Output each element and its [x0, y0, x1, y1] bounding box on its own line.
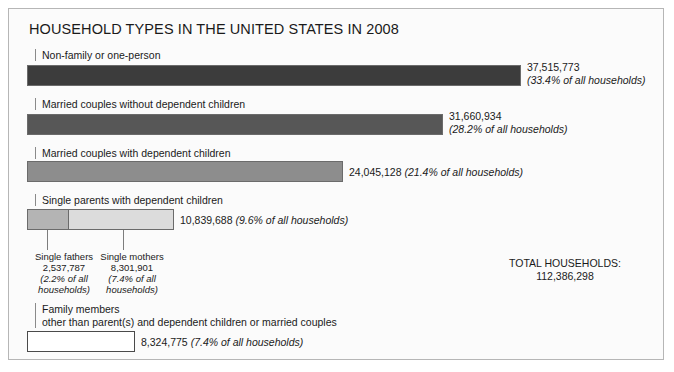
- bar-value-married-with-children: 24,045,128 (21.4% of all households): [349, 166, 523, 179]
- bar-value-number: 24,045,128: [349, 166, 402, 178]
- bar-non-family: [27, 65, 521, 86]
- callout-name: Single mothers: [99, 251, 165, 262]
- bar-value-number: 8,324,775: [141, 336, 188, 348]
- bar-label-single-parents: Single parents with dependent children: [35, 194, 223, 206]
- bar-label-other-family-members: Family members other than parent(s) and …: [35, 303, 337, 328]
- bar-value-non-family: 37,515,773 (33.4% of all households): [527, 61, 646, 86]
- total-households-label: TOTAL HOUSEHOLDS:: [475, 257, 655, 270]
- bar-value-percent: (9.6% of all households): [235, 214, 348, 226]
- bar-value-percent: (7.4% of all households): [191, 336, 304, 348]
- bar-label-non-family: Non-family or one-person: [35, 49, 160, 61]
- bar-label-married-with-children: Married couples with dependent children: [35, 147, 231, 159]
- bar-value-percent: (28.2% of all households): [449, 123, 568, 136]
- bar-segment-single-mothers: [69, 210, 173, 229]
- bar-other-family-members: [27, 331, 135, 352]
- bar-value-percent: (21.4% of all households): [404, 166, 523, 178]
- callout-single-fathers: Single fathers 2,537,787 (2.2% of all ho…: [33, 251, 95, 295]
- bar-value-married-without-children: 31,660,934 (28.2% of all households): [449, 110, 568, 135]
- callout-percent-line2: households): [99, 284, 165, 295]
- bar-value-percent: (33.4% of all households): [527, 74, 646, 87]
- bar-label-line-1: Family members: [42, 303, 337, 316]
- callout-value: 8,301,901: [99, 262, 165, 273]
- bar-value-number: 31,660,934: [449, 110, 568, 123]
- callout-name: Single fathers: [33, 251, 95, 262]
- bar-label-married-without-children: Married couples without dependent childr…: [35, 98, 245, 110]
- page-title: HOUSEHOLD TYPES IN THE UNITED STATES IN …: [29, 21, 399, 37]
- callout-percent-line2: households): [33, 284, 95, 295]
- callout-value: 2,537,787: [33, 262, 95, 273]
- bar-label-line-2: other than parent(s) and dependent child…: [42, 316, 337, 329]
- bar-single-parents: [27, 209, 174, 230]
- chart-frame: HOUSEHOLD TYPES IN THE UNITED STATES IN …: [8, 8, 664, 360]
- total-households-value: 112,386,298: [475, 270, 655, 283]
- bar-value-other-family-members: 8,324,775 (7.4% of all households): [141, 336, 303, 349]
- bar-value-number: 10,839,688: [180, 214, 233, 226]
- callout-percent-line1: (2.2% of all: [33, 273, 95, 284]
- callout-percent-line1: (7.4% of all: [99, 273, 165, 284]
- bar-value-single-parents: 10,839,688 (9.6% of all households): [180, 214, 348, 227]
- bar-value-number: 37,515,773: [527, 61, 646, 74]
- total-households: TOTAL HOUSEHOLDS: 112,386,298: [475, 257, 655, 283]
- leader-line-single-mothers: [123, 230, 124, 250]
- bar-married-without-children: [27, 114, 443, 135]
- callout-single-mothers: Single mothers 8,301,901 (7.4% of all ho…: [99, 251, 165, 295]
- bar-segment-single-fathers: [28, 210, 69, 229]
- leader-line-single-fathers: [47, 230, 48, 250]
- bar-married-with-children: [27, 161, 343, 182]
